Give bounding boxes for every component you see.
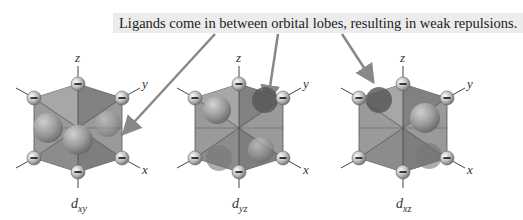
- svg-text:y: y: [465, 76, 473, 91]
- octahedron-dxz: z y x: [341, 50, 473, 188]
- svg-text:x: x: [302, 162, 309, 177]
- svg-text:x: x: [466, 162, 473, 177]
- axis-y-label: y: [140, 76, 148, 91]
- caption: Ligands come in between orbital lobes, r…: [113, 13, 523, 33]
- label-dxy: dxy: [71, 196, 87, 214]
- svg-text:z: z: [399, 50, 405, 65]
- arrow-to-dxz: [342, 34, 372, 80]
- label-dxz: dxz: [396, 196, 411, 214]
- svg-text:z: z: [235, 50, 241, 65]
- orbital-lobe: [63, 125, 93, 155]
- axis-z-label: z: [74, 50, 80, 65]
- label-dyz: dyz: [232, 196, 247, 214]
- octahedron-dxy: z y x: [16, 50, 148, 188]
- axis-x-label: x: [141, 162, 148, 177]
- svg-text:y: y: [301, 76, 309, 91]
- octahedron-dyz: z y x: [177, 50, 309, 188]
- orbital-lobe: [33, 113, 63, 143]
